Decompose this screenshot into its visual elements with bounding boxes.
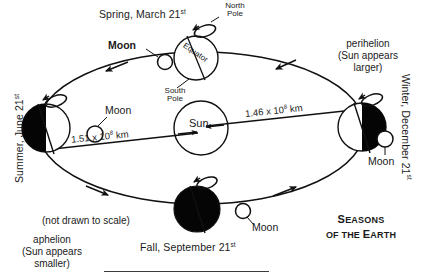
moon-spring-body [146,49,173,70]
label-moon-winter: Moon [368,156,394,167]
label-aphelion: aphelion (Sun appears smaller) [0,234,104,271]
label-summer: Summer, June 21st [14,94,25,183]
rotation-arrow-spring [193,22,217,39]
label-moon-fall: Moon [252,222,278,233]
diagram-title: SEASONS OF THE EARTH [308,212,414,241]
label-fall: Fall, September 21st [140,242,236,253]
label-moon-summer: Moon [105,105,131,116]
label-winter: Winter, December 21st [400,74,411,180]
label-spring: Spring, March 21st [99,9,186,20]
title-line-2: OF THE EARTH [308,227,414,242]
label-perihelion: perihelion (Sun appears larger) [318,38,418,75]
title-line-1: SEASONS [308,212,414,227]
label-north-pole: North Pole [215,2,255,19]
label-south-pole: South Pole [155,87,195,104]
label-moon-spring: Moon [108,40,136,51]
label-not-to-scale: (not drawn to scale) [42,216,130,227]
seasons-diagram: Spring, March 21st North Pole Equator So… [0,0,422,279]
label-sun: Sun [189,118,209,130]
moon-winter-body [377,131,393,155]
earth-fall [174,175,220,233]
bottom-rule [104,271,269,272]
earth-summer [22,92,70,154]
